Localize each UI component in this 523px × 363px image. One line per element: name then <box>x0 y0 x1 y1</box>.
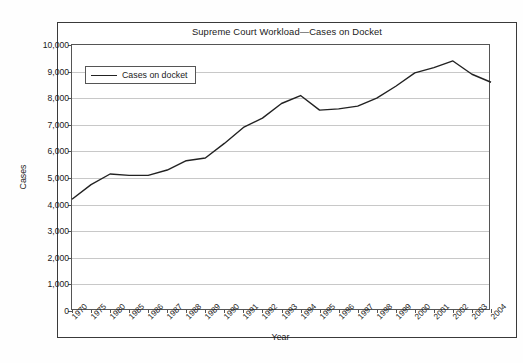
y-tick-label: 2,000 <box>47 253 69 263</box>
chart-title: Supreme Court Workload—Cases on Docket <box>57 26 517 37</box>
y-axis-label-text: Cases <box>18 165 28 190</box>
chart-legend: Cases on docket <box>85 66 196 84</box>
legend-label: Cases on docket <box>122 70 188 80</box>
y-tick-label: 7,000 <box>47 120 69 130</box>
y-tick-label: 4,000 <box>47 200 69 210</box>
y-tick-label: 6,000 <box>47 146 69 156</box>
y-tick-label: 0 <box>64 306 69 316</box>
series-cases-on-docket <box>72 45 491 311</box>
y-tick-label: 9,000 <box>47 67 69 77</box>
y-axis-label: Cases <box>17 44 29 310</box>
y-tick-label: 5,000 <box>47 173 69 183</box>
y-tick-label: 1,000 <box>47 279 69 289</box>
y-tick-label: 8,000 <box>47 93 69 103</box>
x-axis-label: Year <box>71 332 490 342</box>
y-tick-label: 3,000 <box>47 226 69 236</box>
y-tick-label: 10,000 <box>43 40 69 50</box>
chart-figure: Supreme Court Workload—Cases on Docket C… <box>0 0 523 363</box>
legend-line-swatch <box>91 75 117 76</box>
